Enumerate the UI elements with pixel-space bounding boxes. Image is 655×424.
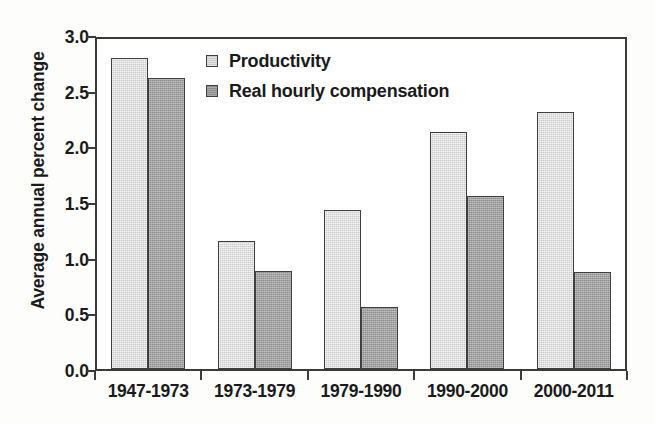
y-tick-label: 1.0 <box>43 249 89 270</box>
x-tick-mark <box>94 371 96 380</box>
plot-area: ProductivityReal hourly compensation <box>95 37 627 371</box>
chart-legend: ProductivityReal hourly compensation <box>206 46 449 106</box>
y-axis-title: Average annual percent change <box>28 11 49 351</box>
x-tick-mark <box>307 371 309 380</box>
legend-swatch-icon <box>206 85 218 97</box>
legend-item[interactable]: Productivity <box>206 46 449 76</box>
chart-figure: Average annual percent change 0.00.51.01… <box>0 0 655 424</box>
bar <box>324 210 361 369</box>
legend-label: Real hourly compensation <box>229 81 449 102</box>
bar <box>537 112 574 369</box>
legend-swatch-icon <box>206 55 218 67</box>
x-tick-label: 1979-1990 <box>321 381 402 402</box>
y-tick-label: 2.0 <box>43 138 89 159</box>
bar <box>430 132 467 369</box>
legend-label: Productivity <box>229 51 331 72</box>
x-tick-mark <box>413 371 415 380</box>
bar <box>467 196 504 369</box>
bar <box>574 272 611 369</box>
y-tick-label: 3.0 <box>43 27 89 48</box>
y-tick-label: 0.5 <box>43 305 89 326</box>
x-tick-mark <box>200 371 202 380</box>
x-tick-mark <box>626 371 628 380</box>
bar <box>111 58 148 369</box>
x-tick-label: 1973-1979 <box>214 381 295 402</box>
x-tick-label: 1947-1973 <box>108 381 189 402</box>
bar <box>255 271 292 369</box>
x-tick-label: 1990-2000 <box>427 381 508 402</box>
y-tick-label: 2.5 <box>43 82 89 103</box>
legend-item[interactable]: Real hourly compensation <box>206 76 449 106</box>
x-tick-label: 2000-2011 <box>534 381 614 402</box>
y-tick-label: 1.5 <box>43 194 89 215</box>
y-tick-label: 0.0 <box>43 361 89 382</box>
bar <box>218 241 255 369</box>
x-tick-mark <box>520 371 522 380</box>
bar <box>148 78 185 369</box>
bar <box>361 307 398 369</box>
